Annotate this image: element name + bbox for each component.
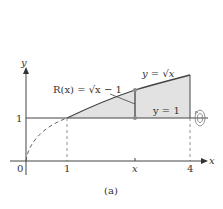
dashed-curve [26,118,67,161]
x-axis-arrow-icon [201,158,208,164]
y-axis-arrow-icon [23,67,29,74]
radius-top-dot [133,88,137,92]
line-label: y = 1 [152,105,180,116]
x-axis-label: x [209,155,215,166]
y-axis-label: y [20,57,27,68]
figure-caption: (a) [104,185,118,196]
tick-label-4: 4 [187,163,193,174]
tick-label-1: 1 [64,163,70,174]
radius-label: R(x) = √x − 1 [53,84,122,95]
origin-label: 0 [17,163,23,174]
solid-of-revolution-diagram: y x 0 1 x 4 1 y = √x y = 1 R(x) = √x − 1… [0,0,223,209]
curve-label: y = √x [141,68,175,79]
tick-label-x: x [132,163,138,174]
radius-bottom-dot [133,116,137,120]
y-tick-label-1: 1 [16,113,22,124]
